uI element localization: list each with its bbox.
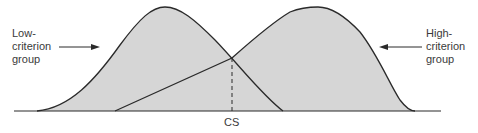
- low-label-line1: Low-: [12, 27, 51, 40]
- high-label-line3: group: [426, 53, 465, 66]
- low-criterion-group-label: Low-criteriongroup: [12, 27, 51, 66]
- high-criterion-group-label: High-criteriongroup: [426, 27, 465, 66]
- high-label-line1: High-: [426, 27, 465, 40]
- high-label-line2: criterion: [426, 40, 465, 53]
- low-label-line2: criterion: [12, 40, 51, 53]
- low-label-line3: group: [12, 53, 51, 66]
- cutoff-score-label: CS: [224, 116, 239, 129]
- low-group-arrowhead-icon: [91, 44, 100, 50]
- distribution-diagram: [0, 0, 478, 133]
- high-group-arrowhead-icon: [379, 44, 388, 50]
- curves-fill-area: [37, 7, 415, 111]
